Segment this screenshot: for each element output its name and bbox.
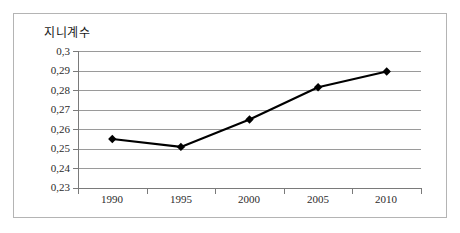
data-point-marker [108,135,116,143]
data-point-marker [383,67,391,75]
series-line-gini [112,72,386,147]
chart-figure: 지니계수 0,3 0,29 0,28 0,27 0,26 0,25 0,24 0… [0,0,460,233]
data-point-marker [314,83,322,91]
data-point-marker [245,115,253,123]
data-series-layer [0,0,460,233]
data-point-marker [177,143,185,151]
